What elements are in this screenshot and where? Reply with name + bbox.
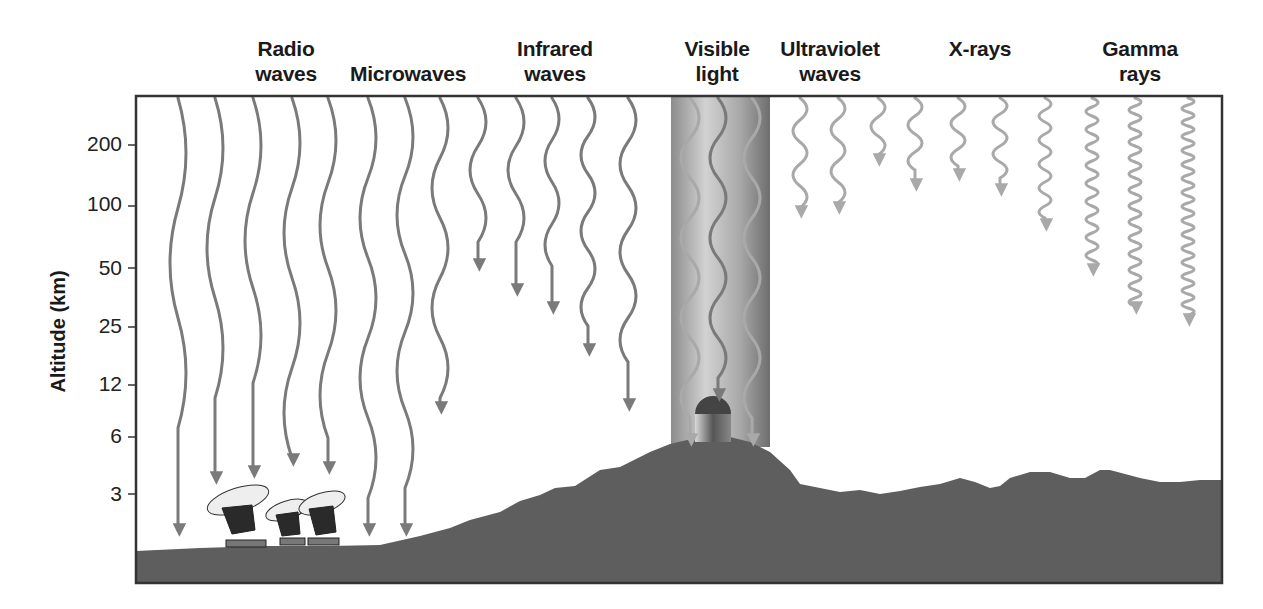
wave-arrow-icon [320,98,336,468]
wave-arrow-icon [871,98,885,160]
wave-arrow-icon [1039,98,1051,225]
wave-arrow-icon [1129,98,1141,308]
wave-arrow-icon [1086,98,1098,270]
observatory-dome-icon [695,396,731,442]
wave-arrow-icon [284,98,300,460]
wave-arrow-icon [1182,98,1194,320]
wave-arrow-icon [831,98,845,208]
wave-arrow-icon [545,98,559,308]
wave-arrow-icon [581,98,595,350]
wave-arrow-icon [397,98,413,530]
wave-arrow-icon [432,98,448,408]
wave-arrow-icon [793,98,807,212]
wave-arrow-icon [245,98,261,472]
wave-arrow-icon [207,98,223,478]
wave-arrow-icon [620,98,636,405]
wave-arrow-icon [908,98,922,185]
wave-arrow-icon [993,98,1007,190]
visible-light-band [671,97,770,447]
wave-arrow-icon [470,98,486,265]
wave-arrow-icon [170,98,186,530]
wave-arrow-icon [360,98,376,530]
wave-arrow-icon [508,98,524,290]
wave-arrow-icon [951,98,965,175]
radio-telescope-icon [204,479,348,547]
diagram-canvas [0,0,1263,609]
